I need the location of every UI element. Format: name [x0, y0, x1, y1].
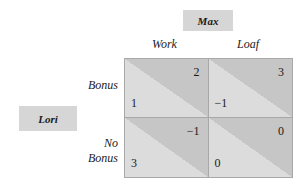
payoff-cell-nobonus-work: −1 3 [125, 118, 209, 177]
payoff-cell-bonus-work: 2 1 [125, 59, 209, 118]
row-player-payoff: 0 [215, 156, 221, 171]
column-player-payoff: 0 [278, 124, 284, 139]
payoff-matrix: 2 1 3 −1 −1 3 0 0 [124, 58, 293, 178]
payoff-cell-nobonus-loaf: 0 0 [209, 118, 293, 177]
column-strategy-work: Work [152, 37, 177, 52]
column-player-payoff: −1 [187, 124, 200, 139]
row-strategy-bonus: Bonus [88, 78, 118, 93]
row-player-payoff: −1 [215, 96, 228, 111]
row-player-payoff: 3 [131, 156, 137, 171]
column-player-payoff: 2 [194, 65, 200, 80]
row-player-label: Lori [19, 106, 77, 131]
row-player-payoff: 1 [131, 96, 137, 111]
column-player-label: Max [183, 10, 233, 31]
column-player-payoff: 3 [278, 65, 284, 80]
column-strategy-loaf: Loaf [237, 37, 259, 52]
payoff-cell-bonus-loaf: 3 −1 [209, 59, 293, 118]
row-strategy-no-bonus: NoBonus [88, 136, 118, 166]
